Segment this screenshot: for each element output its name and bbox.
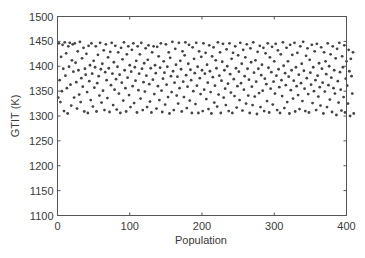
data-point <box>193 72 196 75</box>
data-point <box>244 56 247 59</box>
data-point <box>352 112 355 115</box>
data-point <box>145 74 148 77</box>
data-point <box>214 59 217 62</box>
data-point <box>131 85 134 88</box>
data-point <box>104 71 107 74</box>
data-point <box>146 58 149 61</box>
data-point <box>248 112 251 115</box>
data-point <box>188 99 191 102</box>
data-point <box>219 51 222 54</box>
data-point <box>298 108 301 111</box>
data-point <box>263 77 266 80</box>
data-point <box>225 48 228 51</box>
data-point <box>294 110 297 113</box>
data-point <box>263 110 266 113</box>
data-point <box>279 53 282 56</box>
data-point <box>313 90 316 93</box>
data-point <box>338 41 341 44</box>
data-point <box>302 69 305 72</box>
y-tick-label: 1150 <box>30 185 54 197</box>
data-point <box>66 112 69 115</box>
data-point <box>153 93 156 96</box>
data-point <box>228 42 231 45</box>
data-point <box>229 73 232 76</box>
data-point <box>340 109 343 112</box>
data-point <box>65 87 68 90</box>
data-point <box>112 104 115 107</box>
data-point <box>253 95 256 98</box>
data-point <box>203 72 206 75</box>
data-point <box>67 45 70 48</box>
data-point <box>68 65 71 68</box>
data-point <box>62 67 65 70</box>
data-point <box>115 108 118 111</box>
data-point <box>63 110 66 113</box>
data-point <box>60 90 63 93</box>
data-point <box>200 55 203 58</box>
x-axis: 0100200300400 <box>54 17 355 232</box>
data-point <box>88 80 91 83</box>
data-point <box>250 85 253 88</box>
data-point <box>271 103 274 106</box>
data-point <box>250 61 253 64</box>
data-point <box>198 77 201 80</box>
data-point <box>279 112 282 115</box>
data-point <box>185 74 188 77</box>
data-point <box>283 107 286 110</box>
data-point <box>89 64 92 67</box>
data-point <box>300 62 303 65</box>
data-point <box>216 41 219 44</box>
data-point <box>336 47 339 50</box>
data-point <box>81 57 84 60</box>
data-point <box>306 47 309 50</box>
data-point <box>334 57 337 60</box>
data-point <box>130 70 133 73</box>
data-point <box>194 103 197 106</box>
data-point <box>122 99 125 102</box>
data-point <box>106 97 109 100</box>
data-point <box>140 41 143 44</box>
data-point <box>291 53 294 56</box>
data-point <box>113 88 116 91</box>
data-point <box>187 62 190 65</box>
data-point <box>335 114 338 117</box>
data-point <box>141 109 144 112</box>
data-point <box>259 106 262 109</box>
data-point <box>282 41 285 44</box>
data-point <box>275 74 278 77</box>
data-point <box>175 94 178 97</box>
data-point <box>154 64 157 67</box>
data-point <box>80 77 83 80</box>
data-point <box>189 68 192 71</box>
data-point <box>285 46 288 49</box>
data-point <box>76 107 79 110</box>
data-point <box>141 67 144 70</box>
data-point <box>118 73 121 76</box>
y-axis: 110011501200125013001350140014501500 <box>29 11 346 222</box>
data-point <box>293 41 296 44</box>
data-point <box>102 49 105 52</box>
data-point <box>136 45 139 48</box>
data-point <box>271 45 274 48</box>
data-point <box>177 102 180 105</box>
data-point <box>123 41 126 44</box>
x-tick-label: 300 <box>265 220 283 232</box>
data-point <box>103 109 106 112</box>
data-point <box>309 71 312 74</box>
data-point <box>212 46 215 49</box>
data-point <box>61 43 64 46</box>
data-point <box>180 110 183 113</box>
y-tick-label: 1450 <box>29 35 53 47</box>
data-point <box>334 92 337 95</box>
data-point <box>196 65 199 68</box>
data-point <box>237 54 240 57</box>
data-point <box>324 60 327 63</box>
data-point <box>198 50 201 53</box>
data-point <box>97 53 100 56</box>
data-point <box>287 60 290 63</box>
data-point <box>292 97 295 100</box>
data-point <box>184 41 187 44</box>
data-point <box>245 43 248 46</box>
data-point <box>201 110 204 113</box>
data-point <box>265 83 268 86</box>
